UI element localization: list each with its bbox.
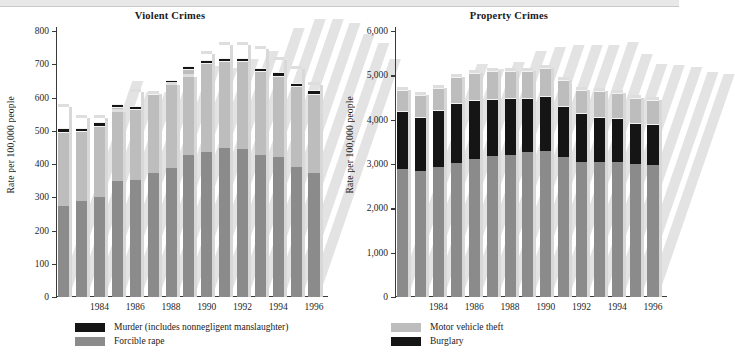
x-axis-tick-label: 1992	[233, 302, 252, 312]
bar-side-face	[480, 73, 483, 297]
bar[interactable]	[505, 71, 516, 297]
y-axis-label-right: Rate per 100,000 people	[345, 96, 359, 193]
bar[interactable]	[576, 90, 587, 297]
bar-segment	[540, 151, 551, 297]
bar-side-face	[69, 107, 72, 297]
bar-segment	[130, 180, 141, 297]
bar-segment	[308, 173, 319, 297]
bar-segment	[273, 76, 284, 158]
bar[interactable]	[594, 91, 605, 297]
bar-segment	[397, 169, 408, 297]
x-axis-tick-label: 1988	[501, 302, 520, 312]
bar-side-face	[605, 91, 608, 297]
bar-segment	[522, 71, 533, 98]
bar-segment	[166, 168, 177, 297]
bar-segment	[255, 155, 266, 297]
bar[interactable]	[76, 118, 87, 297]
x-axis-tick-label: 1986	[126, 302, 145, 312]
bar[interactable]	[94, 118, 105, 297]
bar-top-face	[612, 90, 623, 93]
bar-top-face	[291, 66, 302, 69]
x-axis-tick-label: 1984	[429, 302, 448, 312]
bar[interactable]	[522, 71, 533, 297]
bar[interactable]	[487, 71, 498, 297]
bar-top-face	[576, 87, 587, 90]
legend-item[interactable]: Burglary	[339, 334, 679, 348]
bar[interactable]	[148, 94, 159, 297]
bar-segment	[612, 162, 623, 297]
bar-segment	[112, 181, 123, 297]
bar[interactable]	[112, 112, 123, 297]
bar[interactable]	[647, 100, 658, 297]
bar[interactable]	[201, 54, 212, 297]
bar-segment	[433, 88, 444, 110]
bar[interactable]	[612, 93, 623, 297]
legend-swatch	[391, 337, 421, 346]
bar[interactable]	[469, 73, 480, 297]
y-axis-tick	[391, 120, 395, 121]
bar-side-face	[141, 92, 144, 297]
bar-series-property-crimes	[395, 31, 663, 297]
legend-item[interactable]: Murder (includes nonnegligent manslaught…	[0, 320, 340, 334]
y-axis-tick-label: 200	[35, 226, 49, 236]
y-axis-tick-label: 800	[35, 26, 49, 36]
bar[interactable]	[415, 95, 426, 297]
bar-top-face	[255, 46, 266, 49]
bar[interactable]	[58, 107, 69, 297]
bar-segment	[308, 90, 319, 93]
chart-title-property-crimes: Property Crimes	[339, 10, 679, 21]
chart-panel-property-crimes: Property Crimes Rate per 100,000 people …	[339, 0, 679, 362]
bar-side-face	[87, 118, 90, 297]
legend-item[interactable]: Forcible rape	[0, 334, 340, 348]
bar-top-face	[397, 87, 408, 90]
bar[interactable]	[451, 77, 462, 297]
bar-segment	[630, 164, 641, 297]
x-axis-tick-label: 1996	[643, 302, 662, 312]
bar-side-face	[444, 88, 447, 297]
bar-series-violent-crimes	[56, 31, 324, 297]
bar[interactable]	[630, 98, 641, 297]
bar[interactable]	[166, 85, 177, 297]
bar-side-face	[194, 77, 197, 297]
bar[interactable]	[273, 60, 284, 297]
bar-segment	[433, 110, 444, 166]
bar[interactable]	[130, 92, 141, 297]
y-axis-label-left: Rate per 100,000 people	[6, 96, 20, 193]
bar[interactable]	[433, 88, 444, 297]
bar-top-face	[148, 91, 159, 94]
bar-segment	[183, 69, 194, 155]
bar[interactable]	[291, 69, 302, 297]
bar[interactable]	[308, 85, 319, 297]
bar-segment	[576, 113, 587, 161]
bar-top-face	[273, 57, 284, 60]
bar-top-face	[166, 82, 177, 85]
bar[interactable]	[540, 68, 551, 297]
bar-segment	[451, 103, 462, 163]
bar-segment	[433, 167, 444, 297]
y-axis-tick	[52, 264, 56, 265]
bar-top-face	[630, 95, 641, 98]
bar-top-face	[594, 88, 605, 91]
bar-top-face	[201, 51, 212, 54]
bar-side-face	[462, 77, 465, 297]
bar-segment	[76, 201, 87, 297]
bar-segment	[58, 132, 69, 206]
bar[interactable]	[219, 45, 230, 297]
y-axis-tick-label: 100	[35, 259, 49, 269]
bar-top-face	[451, 74, 462, 77]
bar-side-face	[516, 71, 519, 297]
bar[interactable]	[237, 45, 248, 297]
bar-segment	[76, 131, 87, 201]
bar[interactable]	[255, 49, 266, 297]
bar-top-face	[219, 42, 230, 45]
bar-segment	[291, 83, 302, 86]
y-axis-tick	[391, 31, 395, 32]
bar-side-face	[623, 93, 626, 297]
y-axis-tick-label: 500	[35, 126, 49, 136]
bar[interactable]	[183, 77, 194, 297]
bar[interactable]	[397, 90, 408, 297]
legend-item[interactable]: Motor vehicle theft	[339, 320, 679, 334]
bar-segment	[558, 80, 569, 106]
plot-area-violent-crimes: 0100200300400500600700800198419861988199…	[56, 31, 324, 297]
bar[interactable]	[558, 80, 569, 297]
